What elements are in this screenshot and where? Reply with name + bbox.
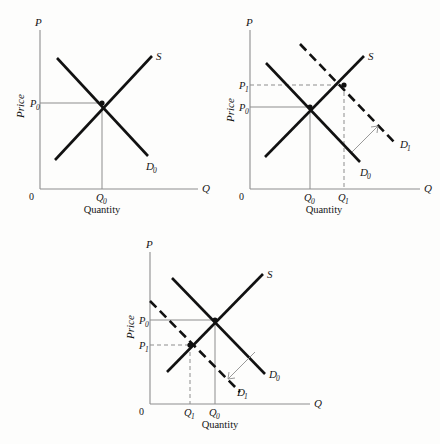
demand-curve-d1-label: D 1 bbox=[399, 138, 411, 153]
equilibrium-point-initial bbox=[307, 104, 312, 109]
origin-label: 0 bbox=[139, 406, 144, 417]
y-axis-label: Price bbox=[14, 94, 26, 119]
panel-initial-equilibrium: P Q 0 Price Quantity S D 0 P 0 Q 0 bbox=[0, 0, 220, 222]
y-axis-label: Price bbox=[124, 315, 136, 340]
x-axis-symbol: Q bbox=[202, 182, 210, 194]
svg-text:S: S bbox=[267, 268, 273, 280]
origin-label: 0 bbox=[239, 191, 244, 202]
y-axis-symbol: P bbox=[245, 16, 253, 28]
svg-text:S: S bbox=[156, 50, 162, 62]
equilibrium-point bbox=[99, 100, 104, 105]
y-axis-symbol: P bbox=[145, 238, 153, 250]
demand-curve-d0 bbox=[266, 63, 360, 162]
x-axis-symbol: Q bbox=[314, 397, 322, 409]
svg-text:1: 1 bbox=[345, 197, 349, 206]
supply-demand-figure: P Q 0 Price Quantity S D 0 P 0 Q 0 bbox=[0, 0, 440, 444]
svg-text:1: 1 bbox=[407, 144, 411, 153]
demand-curve-d0-label: D 0 bbox=[145, 160, 157, 175]
svg-text:0: 0 bbox=[216, 412, 220, 421]
price-tick-p1: P 1 bbox=[238, 80, 249, 94]
demand-curve-d1 bbox=[300, 44, 396, 144]
svg-text:1: 1 bbox=[244, 392, 248, 401]
demand-curve-d0 bbox=[172, 278, 265, 374]
supply-curve-label: S bbox=[267, 268, 273, 280]
y-axis-label: Price bbox=[224, 98, 236, 123]
svg-text:0: 0 bbox=[145, 320, 149, 329]
price-tick-p1: P 1 bbox=[138, 340, 149, 354]
quantity-tick-q1: Q 1 bbox=[184, 407, 195, 421]
svg-text:0: 0 bbox=[245, 107, 249, 116]
svg-text:S: S bbox=[368, 50, 374, 62]
y-axis-symbol: P bbox=[34, 16, 42, 28]
price-tick-p0: P 0 bbox=[29, 98, 40, 112]
demand-curve-d0-label: D 0 bbox=[359, 166, 371, 181]
svg-text:1: 1 bbox=[191, 412, 195, 421]
supply-curve-label: S bbox=[368, 50, 374, 62]
equilibrium-point-new bbox=[341, 82, 346, 87]
x-axis-symbol: Q bbox=[424, 182, 432, 194]
svg-text:1: 1 bbox=[145, 345, 149, 354]
price-tick-p0: P 0 bbox=[238, 102, 249, 116]
demand-curve-d1-label: D 1 bbox=[236, 386, 248, 401]
svg-text:0: 0 bbox=[153, 166, 157, 175]
equilibrium-point-initial bbox=[212, 317, 217, 322]
demand-curve-d0-label: D 0 bbox=[268, 368, 280, 383]
equilibrium-point-new bbox=[187, 342, 192, 347]
svg-text:0: 0 bbox=[311, 197, 315, 206]
demand-shift-arrow bbox=[352, 126, 378, 152]
svg-text:1: 1 bbox=[245, 85, 249, 94]
price-tick-p0: P 0 bbox=[138, 315, 149, 329]
svg-text:0: 0 bbox=[367, 172, 371, 181]
supply-curve-label: S bbox=[156, 50, 162, 62]
panel-demand-increase: P Q 0 Price Quantity S D 0 D 1 P 1 P 0 Q… bbox=[220, 0, 440, 222]
origin-label: 0 bbox=[29, 191, 34, 202]
svg-text:0: 0 bbox=[276, 374, 280, 383]
panel-demand-decrease: P Q 0 Price Quantity S D 0 D 1 P 0 P 1 Q… bbox=[110, 222, 330, 444]
demand-shift-arrow bbox=[228, 352, 255, 379]
demand-curve-d1 bbox=[150, 301, 240, 392]
svg-text:0: 0 bbox=[103, 197, 107, 206]
x-axis-label: Quantity bbox=[202, 419, 239, 430]
svg-text:0: 0 bbox=[36, 103, 40, 112]
